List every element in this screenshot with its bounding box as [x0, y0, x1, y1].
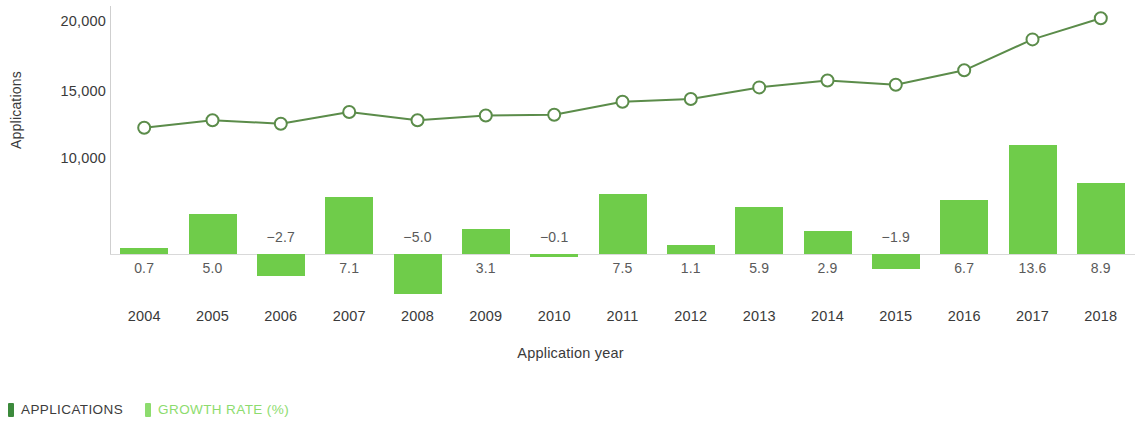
applications-data-point-marker[interactable] — [138, 122, 150, 134]
x-axis-tick-label: 2008 — [383, 308, 451, 324]
applications-data-point-marker[interactable] — [548, 109, 560, 121]
y-axis-title: Applications — [2, 30, 30, 190]
growth-rate-value-label: 0.7 — [110, 260, 178, 276]
applications-data-point-marker[interactable] — [822, 75, 834, 87]
applications-data-point-marker[interactable] — [207, 114, 219, 126]
x-axis-tick-label: 2007 — [315, 308, 383, 324]
growth-rate-value-label: −0.1 — [520, 229, 588, 245]
applications-data-point-marker[interactable] — [890, 79, 902, 91]
x-axis-tick-label: 2016 — [930, 308, 998, 324]
growth-rate-value-label: 2.9 — [793, 260, 861, 276]
x-axis-tick-label: 2010 — [520, 308, 588, 324]
x-axis-tick-label: 2011 — [588, 308, 656, 324]
growth-rate-value-label: −2.7 — [247, 229, 315, 245]
y-axis-title-text: Applications — [8, 71, 24, 149]
legend-label-growth-rate: GROWTH RATE (%) — [158, 402, 289, 417]
growth-rate-value-label: 6.7 — [930, 260, 998, 276]
legend-swatch-applications — [8, 403, 14, 417]
legend-swatch-growth-rate — [145, 403, 151, 417]
applications-data-point-marker[interactable] — [617, 96, 629, 108]
applications-data-point-marker[interactable] — [1027, 33, 1039, 45]
x-axis-title-text: Application year — [517, 345, 623, 361]
growth-rate-value-label: 8.9 — [1067, 260, 1135, 276]
x-axis-tick-label: 2006 — [247, 308, 315, 324]
x-axis-tick-label: 2014 — [793, 308, 861, 324]
x-axis-tick-label: 2005 — [178, 308, 246, 324]
applications-data-point-marker[interactable] — [1095, 12, 1107, 24]
x-axis-tick-label: 2017 — [998, 308, 1066, 324]
applications-data-point-marker[interactable] — [412, 114, 424, 126]
x-axis-tick-label: 2012 — [657, 308, 725, 324]
applications-data-point-marker[interactable] — [685, 93, 697, 105]
plot-area: 0.75.0−2.77.1−5.03.1−0.17.51.15.92.9−1.9… — [110, 0, 1135, 300]
x-axis-tick-label: 2004 — [110, 308, 178, 324]
applications-line — [144, 18, 1101, 128]
legend-item-growth-rate[interactable]: GROWTH RATE (%) — [145, 402, 289, 417]
applications-data-point-marker[interactable] — [958, 64, 970, 76]
growth-rate-value-label: −5.0 — [383, 229, 451, 245]
chart-legend: APPLICATIONS GROWTH RATE (%) — [8, 402, 289, 417]
growth-rate-value-label: 13.6 — [998, 260, 1066, 276]
applications-data-point-marker[interactable] — [343, 106, 355, 118]
x-axis-tick-label: 2018 — [1067, 308, 1135, 324]
applications-data-point-marker[interactable] — [480, 110, 492, 122]
x-axis-title: Application year — [0, 345, 1141, 361]
growth-rate-value-label: −1.9 — [862, 229, 930, 245]
growth-rate-value-label: 3.1 — [452, 260, 520, 276]
y-axis-tick-label: 10,000 — [32, 150, 106, 166]
x-axis-tick-label: 2015 — [862, 308, 930, 324]
y-axis-tick-label: 15,000 — [32, 83, 106, 99]
x-axis-tick-label: 2009 — [452, 308, 520, 324]
growth-rate-value-label: 5.0 — [178, 260, 246, 276]
growth-rate-value-label: 1.1 — [657, 260, 725, 276]
applications-line-layer — [110, 0, 1135, 300]
x-axis-tick-label: 2013 — [725, 308, 793, 324]
y-axis-tick-label: 20,000 — [32, 13, 106, 29]
legend-item-applications[interactable]: APPLICATIONS — [8, 402, 123, 417]
legend-label-applications: APPLICATIONS — [21, 402, 123, 417]
growth-rate-value-label: 7.1 — [315, 260, 383, 276]
growth-rate-value-label: 5.9 — [725, 260, 793, 276]
applications-data-point-marker[interactable] — [275, 118, 287, 130]
y-axis-tick-labels: 20,00015,00010,000 — [30, 0, 106, 300]
growth-rate-applications-chart: Applications 20,00015,00010,000 0.75.0−2… — [0, 0, 1141, 432]
growth-rate-value-label: 7.5 — [588, 260, 656, 276]
applications-data-point-marker[interactable] — [753, 81, 765, 93]
